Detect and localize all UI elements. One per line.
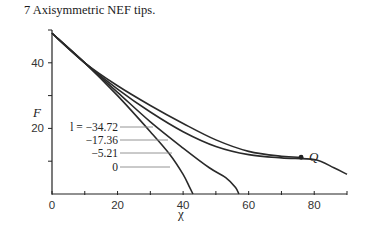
curve-label-text: −5.21 — [91, 147, 118, 159]
curve-l-0 — [52, 33, 193, 194]
x-tick-label: 80 — [308, 199, 321, 211]
q-label: Q — [309, 149, 319, 164]
curve-label-text: −17.36 — [86, 134, 119, 146]
chart-canvas: 0204060802040 Q l = −34.72−17.36−5.210 F… — [0, 0, 367, 232]
y-tick-label: 20 — [31, 122, 44, 134]
y-axis-title: F — [32, 105, 42, 120]
x-axis-title: χ — [177, 206, 184, 221]
x-tick-label: 0 — [49, 199, 55, 211]
q-point-marker — [299, 155, 304, 160]
x-tick-label: 60 — [242, 199, 255, 211]
curve-labels: l = −34.72−17.36−5.210 — [70, 121, 172, 173]
curve-label-text: l = −34.72 — [70, 121, 118, 133]
curves: Q — [52, 33, 347, 194]
curve-label-text: 0 — [112, 161, 118, 173]
y-tick-label: 40 — [31, 57, 44, 69]
x-tick-label: 20 — [111, 199, 124, 211]
